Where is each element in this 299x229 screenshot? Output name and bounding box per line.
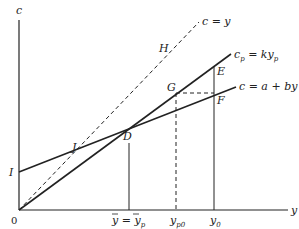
point-J-label: J	[70, 141, 77, 154]
point-I-label: I	[8, 166, 14, 179]
tick-yp0: yp0	[169, 214, 186, 229]
origin-label: 0	[11, 215, 17, 226]
point-G-label: G	[167, 81, 176, 94]
line-c-eq-y	[19, 22, 199, 210]
consumption-function-diagram: c y 0 c = y cp = kyp c = a + by H E G F …	[0, 0, 299, 229]
tick-y0: y0	[209, 214, 221, 229]
point-E-label: E	[216, 65, 225, 78]
y-axis-label: c	[16, 4, 22, 17]
point-H-label: H	[158, 42, 169, 55]
point-F-label: F	[216, 94, 225, 107]
label-c-eq-a-plus-by: c = a + by	[239, 80, 298, 93]
x-axis-label: y	[290, 204, 298, 217]
label-cp-eq-kyp: cp = kyp	[234, 48, 279, 63]
tick-ybar-eq-ybar-p: y = yp	[111, 214, 146, 229]
label-c-eq-y: c = y	[202, 15, 231, 28]
point-D-label: D	[122, 130, 132, 143]
